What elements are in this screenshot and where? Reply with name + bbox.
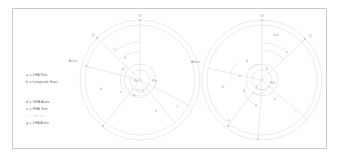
left-label-aries: Aries: [68, 58, 77, 63]
right-arc-letter-a: a: [243, 89, 245, 93]
right-marker-pole: [261, 79, 263, 81]
right-arc-letter-y: e: [274, 97, 276, 101]
left-arc-letter-f: f: [143, 89, 144, 93]
left-marker-observer: [96, 37, 98, 39]
right-marker-bottom: [257, 138, 259, 140]
left-radius-lower-left: [103, 80, 140, 126]
left-radius-lower-right: [140, 80, 176, 124]
right-arc-letter-z: f: [294, 110, 295, 114]
legend-item-g: g = LHA Aries: [26, 122, 49, 126]
right-arc-letter-e: e: [239, 74, 241, 78]
legend-item-e: e = SHA Star: [26, 108, 48, 112]
left-arc-letter-d: d: [124, 56, 126, 60]
left-marker-aries: [85, 65, 87, 67]
left-marker-greenwich: [139, 19, 141, 21]
right-marker-greenwich: [261, 19, 263, 21]
left-arc-letter-e: e: [122, 67, 124, 71]
left-diagram: [80, 19, 200, 140]
left-arc-letter-extra: e: [155, 109, 157, 113]
left-radius-right: [140, 80, 192, 107]
left-marker-lower-left: [102, 125, 104, 127]
right-arc-letter-c: c: [286, 50, 288, 54]
right-label-greenwich: G: [260, 13, 263, 18]
right-arc-ba: [262, 43, 288, 53]
right-arc-d: [230, 62, 238, 82]
left-aries-meridian: [86, 66, 140, 80]
legend-item-f: f = LHA Sun: [26, 115, 46, 119]
right-arc-letter-f: f: [256, 85, 257, 89]
left-arc-letter-extra2: f: [177, 105, 178, 109]
left-label-greenwich: G: [138, 13, 141, 18]
right-arc-letter-x: b: [222, 85, 224, 89]
right-arc-c: [262, 50, 284, 60]
right-arc-f: [256, 86, 269, 90]
right-label-observer: Q: [308, 33, 311, 38]
right-marker-lower-left: [227, 125, 229, 127]
right-radius-bottom: [258, 80, 262, 139]
left-label-center: Pn: [134, 79, 138, 83]
left-arc-letter-g: g: [133, 93, 135, 97]
right-label-pole: Pn: [270, 80, 275, 85]
right-arc-e: [244, 88, 254, 104]
left-arc-letter-a: a: [120, 90, 122, 94]
legend-item-b: b = Longitude East: [26, 81, 58, 85]
right-diagram: [202, 19, 322, 140]
left-label-observer: Q: [91, 32, 94, 37]
left-label-pole: Pn: [152, 78, 157, 83]
left-observer-meridian: [97, 38, 140, 80]
right-arc-letter-b: b: [266, 67, 268, 71]
right-label-difference: b-a: [274, 33, 279, 37]
left-marker-pole: [139, 79, 141, 81]
left-arc-d: [118, 52, 140, 61]
right-arc-b: [248, 64, 260, 70]
left-arc-letter-b: b: [100, 87, 102, 91]
right-arc-letter-d: d: [246, 59, 248, 63]
legend-item-d: d = GHA Aries: [26, 101, 50, 105]
right-marker-observer: [304, 38, 306, 40]
right-arc-letter-w: a: [228, 118, 230, 122]
legend-item-a: a = LHA Star: [26, 74, 47, 78]
left-arc-c: [113, 42, 140, 53]
right-label-aries: Aries: [191, 59, 200, 64]
right-arc-letter-g: g: [255, 103, 257, 107]
